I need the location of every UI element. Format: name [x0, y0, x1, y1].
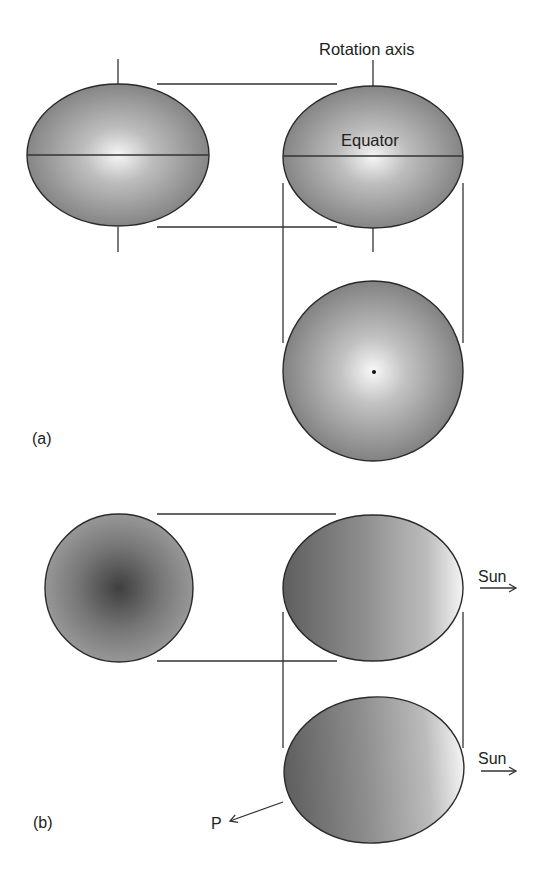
pole-on-planet	[283, 281, 463, 461]
p-label: P	[211, 815, 222, 832]
panel-a: Rotation axis Equator (a)	[27, 40, 463, 461]
pole-dot	[372, 370, 376, 374]
panel-b-label: (b)	[33, 814, 53, 831]
p-arrow-icon	[230, 802, 283, 821]
right-oblate-planet	[283, 60, 463, 252]
panel-a-label: (a)	[32, 430, 52, 447]
sun-label-lower: Sun	[478, 750, 506, 767]
sunlit-ellipse-lower	[279, 691, 469, 849]
diagram-figure: Rotation axis Equator (a) Sun Sun P	[0, 0, 547, 877]
diagram-canvas: Rotation axis Equator (a) Sun Sun P	[0, 0, 547, 877]
rotation-axis-label: Rotation axis	[319, 40, 414, 58]
sun-label-upper: Sun	[478, 568, 506, 585]
equator-label: Equator	[341, 131, 399, 149]
left-oblate-planet	[27, 59, 209, 252]
panel-b: Sun Sun P (b)	[33, 514, 516, 849]
dark-center-circle	[45, 514, 193, 662]
right-ellipse	[283, 86, 463, 228]
sunlit-ellipse-upper	[283, 515, 463, 661]
